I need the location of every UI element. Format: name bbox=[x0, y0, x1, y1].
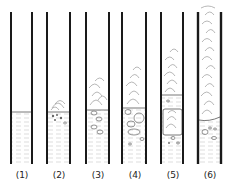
tube-label-3: (3) bbox=[83, 170, 113, 180]
tube-1 bbox=[11, 12, 32, 164]
tube-6 bbox=[198, 6, 221, 164]
tube-label-4: (4) bbox=[120, 170, 150, 180]
tube-3 bbox=[86, 12, 109, 164]
tube-2 bbox=[47, 12, 70, 164]
tube-4 bbox=[122, 12, 146, 164]
tube-label-6: (6) bbox=[195, 170, 225, 180]
tube-label-1: (1) bbox=[7, 170, 37, 180]
tube-label-2: (2) bbox=[44, 170, 74, 180]
tube-5 bbox=[161, 12, 183, 164]
tube-label-5: (5) bbox=[158, 170, 188, 180]
tube-diagram bbox=[0, 0, 233, 191]
